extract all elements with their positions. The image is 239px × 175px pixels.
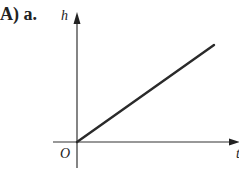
y-axis-arrow-icon — [74, 12, 81, 24]
x-axis-arrow-icon — [229, 139, 239, 146]
graph — [0, 0, 239, 175]
data-line — [77, 45, 214, 142]
